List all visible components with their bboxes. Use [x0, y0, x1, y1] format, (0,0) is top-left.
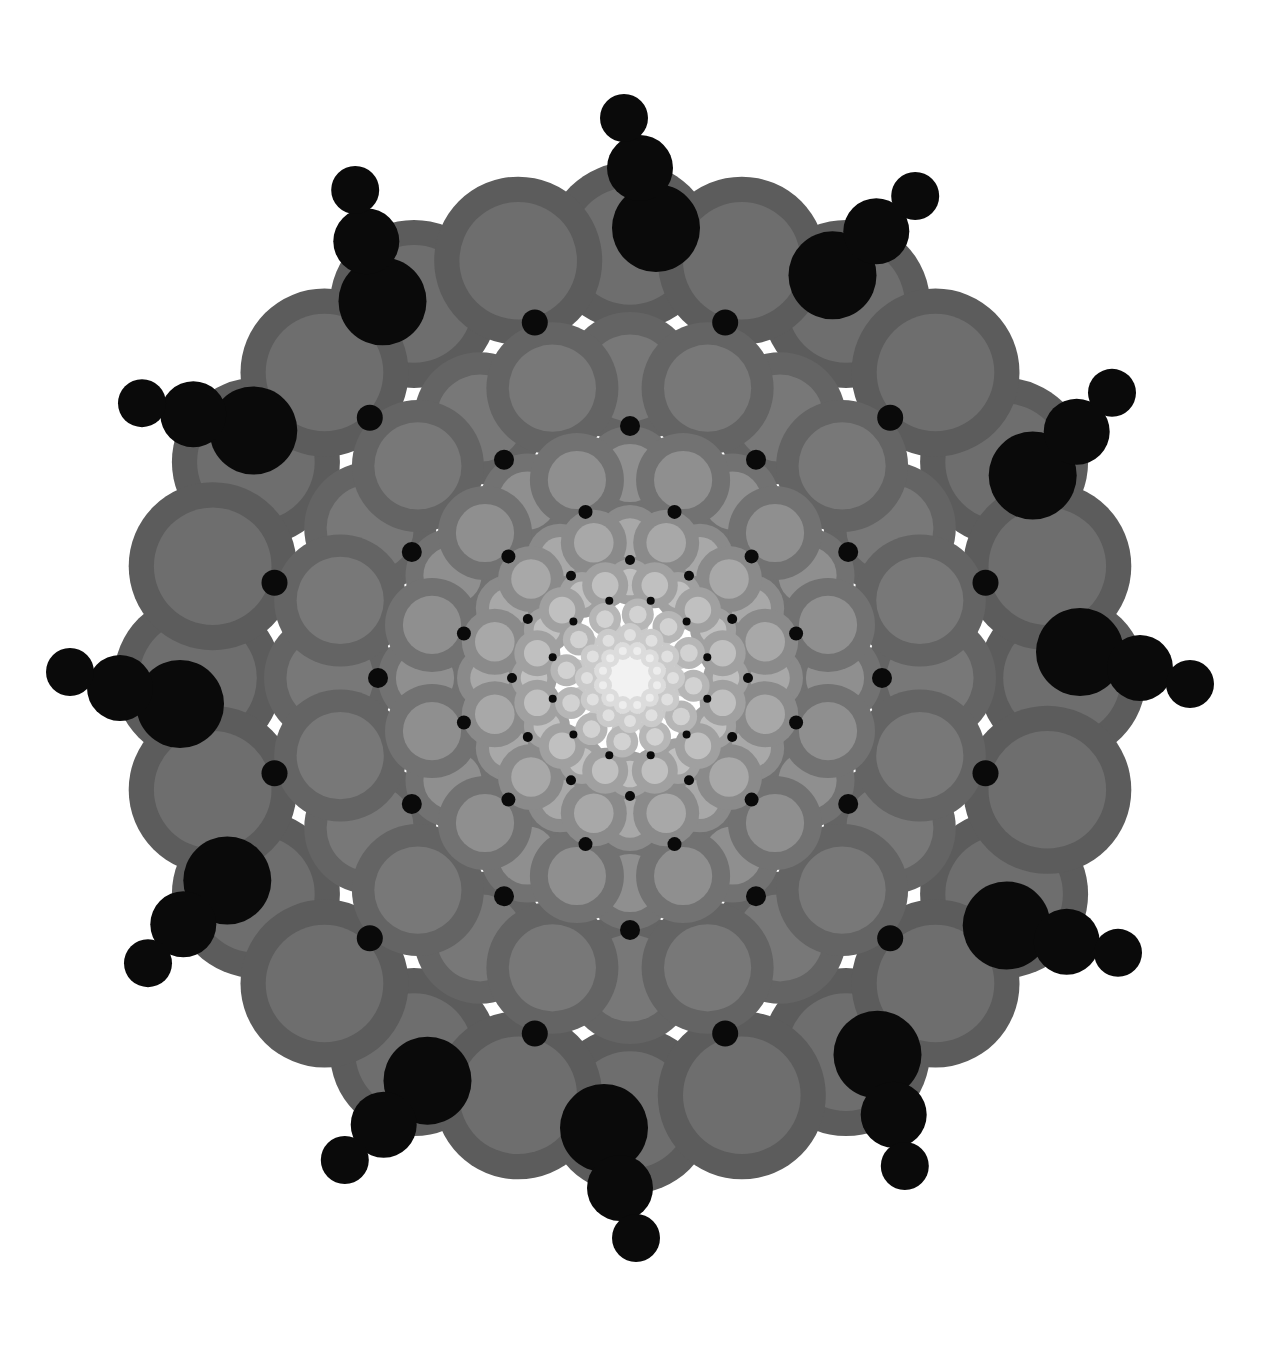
- node-inner-disc: [583, 720, 601, 738]
- node-inner-disc: [667, 672, 679, 684]
- black-dot: [523, 614, 533, 624]
- node-circle: [854, 690, 986, 822]
- node-inner-disc: [629, 606, 647, 624]
- node-inner-disc: [799, 596, 857, 654]
- black-dot: [703, 653, 711, 661]
- node-circle: [700, 630, 746, 676]
- node-inner-disc: [374, 847, 461, 934]
- black-dot: [668, 505, 682, 519]
- black-dot: [549, 653, 557, 661]
- black-cluster-bead: [1166, 660, 1214, 708]
- node-inner-disc: [624, 715, 636, 727]
- node-inner-disc: [459, 1037, 577, 1155]
- node-inner-disc: [613, 733, 631, 751]
- mandala-figure: [0, 0, 1263, 1355]
- black-cluster-bead: [331, 166, 379, 214]
- black-dot: [746, 886, 766, 906]
- node-inner-disc: [403, 596, 461, 654]
- black-dot: [712, 1021, 738, 1047]
- node-inner-disc: [509, 924, 596, 1011]
- node-circle: [582, 562, 628, 608]
- black-dot: [262, 760, 288, 786]
- black-cluster-bead: [587, 1155, 653, 1221]
- node-inner-disc: [624, 629, 636, 641]
- black-dot: [579, 837, 593, 851]
- node-circle: [963, 706, 1131, 874]
- node-inner-disc: [646, 694, 654, 702]
- black-dot: [727, 732, 737, 742]
- node-inner-disc: [592, 757, 619, 784]
- node-inner-disc: [603, 635, 615, 647]
- node-inner-disc: [596, 610, 614, 628]
- black-cluster-bead: [160, 381, 226, 447]
- black-dot: [523, 732, 533, 742]
- node-inner-disc: [709, 640, 736, 667]
- black-dot: [569, 617, 577, 625]
- black-dot: [522, 1021, 548, 1047]
- node-circle: [434, 177, 602, 345]
- black-dot: [625, 791, 635, 801]
- black-dot: [712, 310, 738, 336]
- node-inner-disc: [653, 667, 661, 675]
- node-inner-disc: [558, 661, 576, 679]
- node-circle: [658, 1011, 826, 1179]
- node-circle: [642, 322, 774, 454]
- black-dot: [457, 716, 471, 730]
- black-dot: [877, 925, 903, 951]
- black-cluster-bead: [87, 655, 153, 721]
- node-inner-disc: [633, 701, 641, 709]
- black-dot: [402, 794, 422, 814]
- node-inner-disc: [709, 690, 736, 717]
- node-inner-disc: [799, 847, 886, 934]
- black-dot: [357, 925, 383, 951]
- black-dot: [605, 751, 613, 759]
- black-dot: [522, 310, 548, 336]
- node-inner-disc: [587, 694, 599, 706]
- black-dot: [683, 731, 691, 739]
- black-dot: [727, 614, 737, 624]
- node-inner-disc: [524, 640, 551, 667]
- black-dot: [566, 775, 576, 785]
- node-inner-disc: [603, 709, 615, 721]
- node-inner-disc: [664, 924, 751, 1011]
- node-inner-disc: [745, 694, 785, 734]
- node-inner-disc: [664, 345, 751, 432]
- node-inner-disc: [374, 422, 461, 509]
- black-cluster-bead: [124, 939, 172, 987]
- black-dot: [620, 416, 640, 436]
- black-dot: [789, 716, 803, 730]
- node-inner-disc: [548, 847, 606, 905]
- node-inner-disc: [799, 422, 886, 509]
- black-cluster-bead: [1107, 635, 1173, 701]
- node-inner-disc: [154, 507, 272, 625]
- black-dot: [569, 731, 577, 739]
- black-dot: [501, 793, 515, 807]
- node-circle: [632, 748, 678, 794]
- node-circle: [274, 534, 406, 666]
- node-inner-disc: [574, 793, 614, 833]
- black-dot: [745, 549, 759, 563]
- node-inner-disc: [745, 622, 785, 662]
- black-dot: [262, 570, 288, 596]
- black-dot: [494, 450, 514, 470]
- black-dot: [625, 555, 635, 565]
- node-inner-disc: [654, 847, 712, 905]
- node-circle: [854, 534, 986, 666]
- node-inner-disc: [989, 507, 1107, 625]
- node-inner-disc: [154, 731, 272, 849]
- node-inner-disc: [619, 701, 627, 709]
- node-inner-disc: [646, 635, 658, 647]
- black-dot: [368, 668, 388, 688]
- node-inner-disc: [642, 572, 669, 599]
- black-dot: [789, 627, 803, 641]
- black-cluster-bead: [1034, 909, 1100, 975]
- node-inner-disc: [587, 651, 599, 663]
- node-inner-disc: [654, 451, 712, 509]
- black-cluster-bead: [118, 379, 166, 427]
- node-inner-disc: [653, 681, 661, 689]
- black-dot: [877, 405, 903, 431]
- node-inner-disc: [646, 709, 658, 721]
- black-dot: [973, 570, 999, 596]
- node-inner-disc: [799, 702, 857, 760]
- node-circle: [486, 902, 618, 1034]
